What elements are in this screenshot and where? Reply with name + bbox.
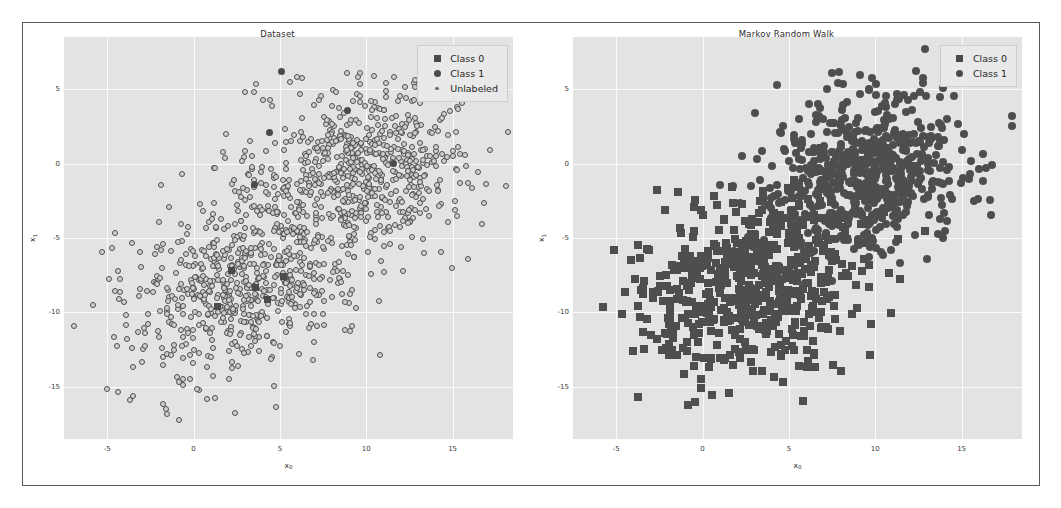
unlabeled-point [71,323,77,329]
unlabeled-point [395,146,401,152]
class1-point [865,253,873,261]
legend-item[interactable]: Class 1 [424,66,498,81]
class1-point [826,209,834,217]
class0-point [767,348,775,356]
unlabeled-point [130,364,136,370]
unlabeled-point [178,327,184,333]
class0-point [799,397,807,405]
class0-point [689,233,697,241]
class1-point [855,179,863,187]
class0-point [643,245,651,253]
subplot-dataset: Dataset -505101550-5-10-15 x0 x1 Class 0… [23,23,532,485]
class1-point [843,133,851,141]
unlabeled-point [294,285,300,291]
unlabeled-point [378,177,384,183]
class1-point [891,126,899,134]
class0-point [656,272,664,280]
class1-point [923,255,931,263]
class1-point [819,115,827,123]
class1-point [827,291,835,299]
class1-point [823,85,831,93]
unlabeled-point [150,289,156,295]
unlabeled-point [354,159,360,165]
class0-point [698,318,706,326]
unlabeled-point [279,298,285,304]
unlabeled-point [398,244,404,250]
class1-point [796,165,804,173]
class0-point [789,290,797,298]
unlabeled-point [339,291,345,297]
unlabeled-point [378,258,384,264]
unlabeled-point [257,229,263,235]
unlabeled-point [316,163,322,169]
unlabeled-point [295,214,301,220]
y-tick-label: -10 [551,308,569,316]
y-axis-label-text: x [28,237,37,241]
class0-point [634,302,642,310]
unlabeled-point [168,248,174,254]
class0-point [636,313,644,321]
legend-item[interactable]: Unlabeled [424,81,498,96]
class1-point [967,157,975,165]
unlabeled-point [348,242,354,248]
unlabeled-point [263,148,269,154]
class0-point [627,256,635,264]
legend-item[interactable]: Class 1 [947,66,1007,81]
unlabeled-point [292,305,298,311]
legend-dataset[interactable]: Class 0Class 1Unlabeled [417,45,508,102]
unlabeled-point [454,167,460,173]
y-tick-label: -5 [551,234,569,242]
x-tick-label: -5 [613,445,620,453]
unlabeled-point [286,177,292,183]
unlabeled-point [187,376,193,382]
class1-point [987,211,995,219]
unlabeled-point [390,168,396,174]
unlabeled-point [403,95,409,101]
class0-point [719,273,727,281]
unlabeled-point [264,315,270,321]
unlabeled-point [212,395,218,401]
unlabeled-point [345,272,351,278]
unlabeled-point [373,151,379,157]
class1-point [805,212,813,220]
class1-point [925,211,933,219]
unlabeled-point [114,343,120,349]
unlabeled-point [235,261,241,267]
y-tick-label: 0 [551,160,569,168]
x-tick-label: -5 [104,445,111,453]
y-tick-label: 0 [42,160,60,168]
class1-point [957,179,965,187]
legend-item[interactable]: Class 0 [947,51,1007,66]
gridline-horizontal [573,387,1022,388]
unlabeled-point [340,175,346,181]
legend-markov-random-walk[interactable]: Class 0Class 1 [940,45,1017,87]
unlabeled-point [254,265,260,271]
class1-point [773,181,781,189]
class0-point [848,310,856,318]
class1-point [801,279,809,287]
unlabeled-point [357,81,363,87]
unlabeled-point [337,114,343,120]
legend-item[interactable]: Class 0 [424,51,498,66]
unlabeled-point [284,248,290,254]
class0-point [764,278,772,286]
class0-point [829,361,837,369]
class1-point [862,194,870,202]
class0-point [807,292,815,300]
class1-point [390,160,397,167]
unlabeled-point [263,189,269,195]
unlabeled-point [142,343,148,349]
unlabeled-point [387,199,393,205]
class0-point [725,389,733,397]
unlabeled-point [283,329,289,335]
class1-point [716,181,724,189]
class0-point [774,300,782,308]
unlabeled-point [262,251,268,257]
unlabeled-point [321,322,327,328]
unlabeled-point [185,330,191,336]
class1-point [899,211,907,219]
class1-point [885,134,893,142]
unlabeled-point [438,249,444,255]
unlabeled-point [406,117,412,123]
unlabeled-point [306,325,312,331]
